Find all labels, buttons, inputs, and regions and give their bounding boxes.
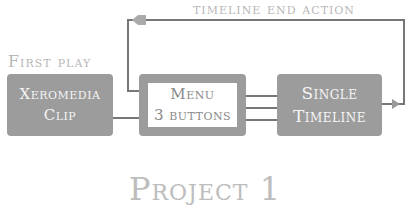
node-single-timeline-line1: Single (301, 82, 357, 105)
node-single-timeline: Single Timeline (277, 74, 382, 136)
node-menu-line2: 3 buttons (154, 105, 231, 126)
first-play-label: First play (8, 52, 91, 71)
arrow-right-icon (392, 99, 400, 109)
timeline-end-action-label: timeline end action (193, 0, 355, 18)
node-single-timeline-line2: Timeline (293, 105, 366, 128)
project-title: Project 1 (0, 170, 410, 208)
node-xeromedia-clip: Xeromedia Clip (7, 74, 113, 136)
node-xeromedia-clip-line1: Xeromedia (20, 84, 101, 105)
node-menu: Menu 3 buttons (139, 74, 246, 136)
node-menu-line1: Menu (154, 84, 231, 105)
arrow-left-icon (132, 15, 146, 25)
node-xeromedia-clip-line2: Clip (44, 105, 77, 126)
